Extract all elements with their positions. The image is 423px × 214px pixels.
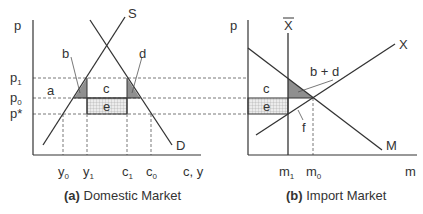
area-e-import-label: e [263,99,270,114]
caption-import: (b) Import Market [286,188,387,203]
area-b-triangle [74,78,87,98]
qty-label-m0: m0 [306,164,322,181]
area-bd-label: b + d [310,64,339,79]
qty-label-c1: c1 [122,164,134,181]
qty-label-c0: c0 [146,164,158,181]
export-supply-curve [256,44,395,135]
y-axis-label-domestic: p [14,18,21,33]
guide-lines-domestic [33,78,248,155]
trade-diagram: p S D b d a c e p1 p0 p* y0 y1 c1 c0 c, … [0,0,423,214]
quota-label: X [284,18,293,33]
price-label-p0: p0 [10,90,22,107]
supply-curve [43,17,125,145]
import-demand-label: M [386,138,397,153]
area-f-label: f [302,120,306,135]
x-axis-label-domestic: c, y [183,164,204,179]
area-c-import-label: c [263,81,270,96]
price-label-p1: p1 [10,70,22,87]
export-supply-label: X [399,37,408,52]
area-d-label: d [139,46,146,61]
qty-label-y1: y1 [83,164,95,181]
qty-label-m1: m1 [279,164,295,181]
area-c-label: c [103,81,110,96]
domestic-market-panel: p S D b d a c e p1 p0 p* y0 y1 c1 c0 c, … [10,6,248,203]
supply-label: S [128,6,137,21]
area-b-label: b [62,46,69,61]
caption-domestic: (a) Domestic Market [64,188,181,203]
import-market-panel: p X X M b + d c e f m1 m0 m (b) Import M… [230,18,417,203]
x-axis-label-import: m [405,164,416,179]
demand-label: D [176,138,185,153]
y-axis-label-import: p [230,18,237,33]
area-a-label: a [47,83,55,98]
area-e-label: e [103,99,110,114]
qty-label-y0: y0 [58,164,70,181]
price-label-pstar: p* [10,106,22,121]
